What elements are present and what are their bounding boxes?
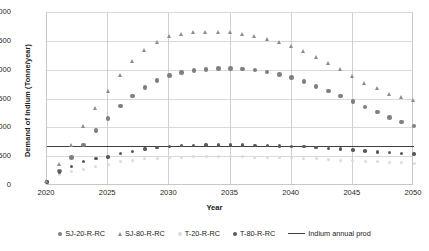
x-axis-tick-label: 2045 <box>343 188 360 197</box>
data-point-t-20-r-rc <box>351 159 354 162</box>
data-point-sj-80-r-rc <box>326 61 330 65</box>
data-point-t-20-r-rc <box>278 156 281 159</box>
data-point-sj-80-r-rc <box>411 98 415 102</box>
legend-label: SJ-20-R-RC <box>65 229 105 238</box>
legend-dot-marker-icon <box>178 232 182 236</box>
data-point-sj-20-r-rc <box>216 66 221 71</box>
data-point-sj-80-r-rc <box>338 67 342 71</box>
data-point-t-80-r-rc <box>327 147 330 150</box>
data-point-sj-20-r-rc <box>192 68 197 73</box>
data-point-sj-80-r-rc <box>69 143 73 147</box>
data-point-sj-20-r-rc <box>228 66 233 71</box>
y-axis-tick-text: 500 <box>0 151 11 160</box>
data-point-sj-20-r-rc <box>265 70 270 75</box>
data-point-sj-20-r-rc <box>302 79 307 84</box>
data-point-sj-20-r-rc <box>69 155 74 160</box>
y-axis-title: Demand of Indium (Tonne/year) <box>23 16 32 186</box>
data-point-sj-80-r-rc <box>179 32 183 36</box>
legend-label: T-20-R-RC <box>185 229 220 238</box>
data-point-sj-80-r-rc <box>314 55 318 59</box>
data-point-sj-20-r-rc <box>106 116 111 121</box>
data-point-sj-20-r-rc <box>253 68 258 73</box>
data-point-t-80-r-rc <box>339 147 342 150</box>
data-point-t-80-r-rc <box>388 151 391 154</box>
data-point-sj-20-r-rc <box>289 75 294 80</box>
x-axis-tick-label: 2040 <box>282 188 299 197</box>
data-point-t-20-r-rc <box>302 157 305 160</box>
data-point-t-20-r-rc <box>107 163 110 166</box>
data-point-t-20-r-rc <box>94 165 97 168</box>
data-point-t-80-r-rc <box>155 146 158 149</box>
data-point-t-80-r-rc <box>204 143 207 146</box>
data-point-sj-20-r-rc <box>375 110 380 115</box>
data-point-sj-20-r-rc <box>204 67 209 72</box>
data-point-t-80-r-rc <box>400 152 403 155</box>
data-point-sj-80-r-rc <box>240 32 244 36</box>
legend-triangle-marker-icon <box>118 232 122 236</box>
data-point-sj-80-r-rc <box>106 89 110 93</box>
data-point-t-20-r-rc <box>364 160 367 163</box>
data-point-sj-20-r-rc <box>94 128 99 133</box>
data-point-sj-80-r-rc <box>191 30 195 34</box>
y-axis-tick-text: 2000 <box>0 65 11 74</box>
data-point-sj-80-r-rc <box>203 30 207 34</box>
data-point-sj-20-r-rc <box>314 84 319 89</box>
legend-item-indium-annual-prod[interactable]: Indium annual prod <box>288 229 370 238</box>
plot-area <box>46 12 413 185</box>
y-axis-tick-text: 2500 <box>0 36 11 45</box>
data-point-t-80-r-rc <box>131 150 134 153</box>
legend-item-t-20-r-rc[interactable]: T-20-R-RC <box>178 229 220 238</box>
data-point-sj-20-r-rc <box>277 72 282 77</box>
data-point-t-80-r-rc <box>229 143 232 146</box>
data-point-t-80-r-rc <box>143 147 146 150</box>
indium-demand-chart: Demand of Indium (Tonne/year) 0500100015… <box>0 0 429 251</box>
data-point-t-20-r-rc <box>388 161 391 164</box>
data-point-sj-80-r-rc <box>362 81 366 85</box>
x-axis-tick-label: 2025 <box>99 188 116 197</box>
data-point-sj-80-r-rc <box>265 37 269 41</box>
legend-item-sj-80-r-rc[interactable]: SJ-80-R-RC <box>118 229 165 238</box>
data-point-sj-80-r-rc <box>44 179 48 183</box>
data-point-sj-20-r-rc <box>412 124 417 129</box>
y-axis-tick-text: 3000 <box>0 7 11 16</box>
data-point-t-80-r-rc <box>363 149 366 152</box>
data-point-t-20-r-rc <box>266 156 269 159</box>
x-axis-tick-label: 2030 <box>160 188 177 197</box>
data-point-t-20-r-rc <box>119 160 122 163</box>
data-point-sj-80-r-rc <box>399 95 403 99</box>
data-point-t-20-r-rc <box>339 159 342 162</box>
data-point-t-20-r-rc <box>82 168 85 171</box>
data-point-t-20-r-rc <box>315 157 318 160</box>
x-axis-tick-label: 2035 <box>221 188 238 197</box>
data-point-t-80-r-rc <box>106 155 109 158</box>
data-point-sj-80-r-rc <box>118 73 122 77</box>
data-point-sj-80-r-rc <box>130 59 134 63</box>
data-point-sj-20-r-rc <box>155 78 160 83</box>
data-point-t-20-r-rc <box>327 158 330 161</box>
data-point-t-20-r-rc <box>229 155 232 158</box>
data-point-t-80-r-rc <box>94 157 97 160</box>
data-point-sj-20-r-rc <box>351 99 356 104</box>
data-point-t-20-r-rc <box>58 173 61 176</box>
data-point-t-80-r-rc <box>376 150 379 153</box>
data-point-t-20-r-rc <box>413 162 416 165</box>
y-axis-tick-text: 1000 <box>0 122 11 131</box>
legend-dot-marker-icon <box>233 232 237 236</box>
data-point-sj-20-r-rc <box>179 70 184 75</box>
data-point-sj-80-r-rc <box>155 40 159 44</box>
data-point-sj-80-r-rc <box>57 162 61 166</box>
legend-item-t-80-r-rc[interactable]: T-80-R-RC <box>233 229 275 238</box>
data-point-t-80-r-rc <box>168 145 171 148</box>
legend-item-sj-20-r-rc[interactable]: SJ-20-R-RC <box>58 229 105 238</box>
data-point-sj-20-r-rc <box>387 115 392 120</box>
legend-dot-marker-icon <box>58 232 62 236</box>
x-axis-tick-label: 2020 <box>38 188 55 197</box>
data-point-t-20-r-rc <box>400 161 403 164</box>
data-point-t-20-r-rc <box>205 155 208 158</box>
data-point-sj-80-r-rc <box>216 30 220 34</box>
data-point-t-80-r-rc <box>217 143 220 146</box>
data-point-sj-80-r-rc <box>252 34 256 38</box>
data-point-sj-80-r-rc <box>375 86 379 90</box>
data-point-t-80-r-rc <box>412 152 415 155</box>
y-axis-tick-text: 1500 <box>0 94 11 103</box>
